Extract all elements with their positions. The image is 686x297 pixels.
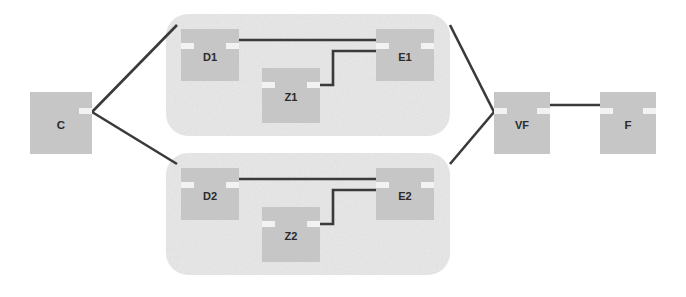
node-z2[interactable]: Z2	[262, 207, 320, 262]
port-notch-left-icon	[376, 43, 389, 49]
node-label-f: F	[624, 119, 631, 131]
edge-e1-to-vf	[450, 25, 494, 112]
node-d1[interactable]: D1	[181, 29, 239, 81]
node-label-d1: D1	[203, 51, 217, 63]
port-notch-right-icon	[643, 108, 656, 114]
node-label-d2: D2	[203, 190, 217, 202]
node-f[interactable]: F	[600, 92, 656, 154]
node-c[interactable]: C	[30, 92, 92, 154]
port-notch-right-icon	[537, 108, 550, 114]
edge-e2-to-vf	[450, 112, 494, 164]
node-label-c: C	[57, 119, 65, 131]
port-notch-right-icon	[307, 82, 320, 88]
diagram-canvas: CD1Z1E1D2Z2E2VFF	[0, 0, 686, 297]
port-notch-left-icon	[262, 82, 275, 88]
edge-c-to-d1	[92, 25, 177, 112]
node-d2[interactable]: D2	[181, 168, 239, 220]
port-notch-right-icon	[421, 43, 434, 49]
port-notch-left-icon	[181, 182, 194, 188]
node-label-z2: Z2	[285, 230, 298, 242]
port-notch-right-icon	[79, 108, 92, 114]
node-label-e1: E1	[398, 51, 411, 63]
port-notch-left-icon	[600, 108, 613, 114]
node-e2[interactable]: E2	[376, 168, 434, 220]
node-e1[interactable]: E1	[376, 29, 434, 81]
port-notch-left-icon	[376, 182, 389, 188]
port-notch-right-icon	[226, 43, 239, 49]
node-label-z1: Z1	[285, 91, 298, 103]
network-diagram: CD1Z1E1D2Z2E2VFF	[0, 0, 686, 297]
node-z1[interactable]: Z1	[262, 68, 320, 123]
port-notch-left-icon	[181, 43, 194, 49]
node-label-vf: VF	[515, 119, 529, 131]
node-vf[interactable]: VF	[494, 92, 550, 154]
port-notch-right-icon	[307, 221, 320, 227]
node-label-e2: E2	[398, 190, 411, 202]
port-notch-right-icon	[226, 182, 239, 188]
port-notch-left-icon	[262, 221, 275, 227]
port-notch-left-icon	[494, 108, 507, 114]
edge-c-to-d2	[92, 112, 177, 164]
port-notch-right-icon	[421, 182, 434, 188]
